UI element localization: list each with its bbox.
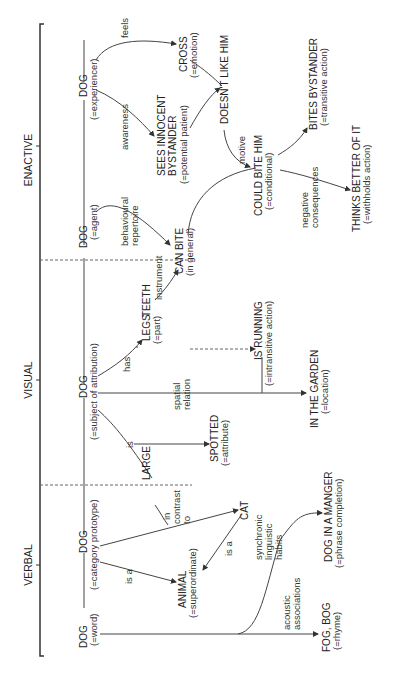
node-spotted-sub: (=attribute) [219,420,230,466]
edge-behavioural-2: repertoire [129,205,140,246]
node-dog-agent-sub: (=agent) [88,204,99,240]
edge-negative-2: consequences [309,166,320,228]
edge-is: is [124,441,135,448]
section-verbal: VERBAL [22,544,34,586]
node-can-bite-sub: (in general) [184,228,195,276]
edge-awareness: awareness [119,104,130,150]
node-could-bite-sub: (=conditional) [263,153,274,210]
node-is-running-sub: (=intransitive action) [263,301,274,386]
node-thinks-better-sub: (=withholds action) [361,145,372,224]
edge-motive: motive [236,136,247,164]
node-bites-bystander-sub: (=transitive action) [318,48,329,126]
node-dog-experiencer-sub: (=experiencer) [88,58,99,120]
edge-spatial-2: relation [181,379,192,410]
edge-synchronic-3: habits [273,534,284,560]
section-visual: VISUAL [22,361,34,399]
edge-instrument: instrument [153,255,164,300]
node-large: LARGE [141,446,152,480]
node-dog-manger-sub: (=phrase completion) [333,478,344,568]
node-cross-sub: (=emotion) [188,32,199,78]
node-fog-bog-sub: (=rhyme) [331,612,342,650]
node-dog-attribution-sub: (=subject of attribution) [88,343,99,440]
edge-is-a-1: is a [123,569,134,585]
node-dog-category-sub: (=category prototype) [88,499,99,590]
edge-has: has [121,356,132,372]
node-sees-bystander-sub: (=potential patient) [178,105,189,184]
node-sees-bystander-2: BYSTANDER [167,116,178,176]
node-legs-sub: (=part) [151,316,162,344]
node-sees-bystander-1: SEES INNOCENT [156,94,167,176]
node-cat: CAT [239,501,250,520]
node-teeth: TEETH [141,284,152,317]
section-enactive: ENACTIVE [22,134,34,187]
edge-acoustic-2: associations [291,577,302,630]
edge-is-a-2: is a [223,541,234,557]
node-doesnt-like: DOESN'T LIKE HIM [219,35,230,124]
edge-feels: feels [119,18,130,38]
node-in-garden-sub: (=location) [319,369,330,414]
node-dog-word-sub: (=word) [88,614,99,646]
node-animal-sub: (=superordinate) [187,548,198,618]
diagram-screen-layer: ENACTIVE VISUAL VERBAL DOG (=experiencer… [0,0,396,680]
